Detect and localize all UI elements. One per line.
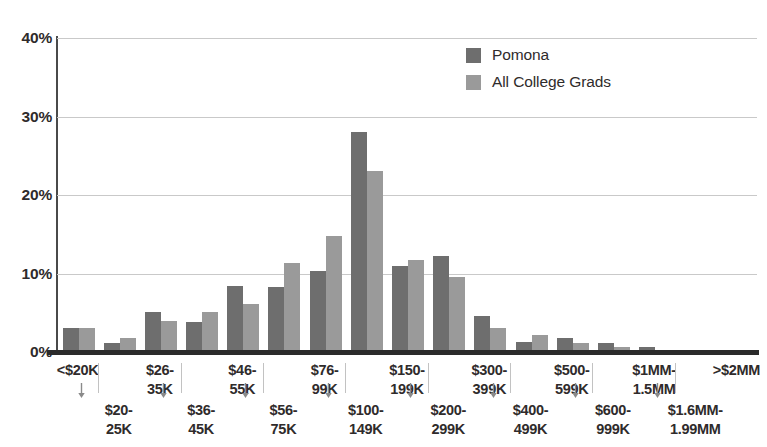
bar xyxy=(433,256,449,352)
x-axis-label-line: $150- xyxy=(362,361,452,380)
x-axis-label-line: 45K xyxy=(156,420,246,439)
x-axis-label-line: $100- xyxy=(321,401,411,420)
bar-group xyxy=(433,38,465,352)
x-axis-label-line: 75K xyxy=(238,420,328,439)
bar-group xyxy=(104,38,136,352)
income-distribution-chart: 0%10%20%30%40% Pomona All College Grads … xyxy=(0,0,767,447)
bar-group xyxy=(186,38,218,352)
x-axis-label-line: 149K xyxy=(321,420,411,439)
x-axis-label: $1.6MM-1.99MM xyxy=(650,401,740,439)
bar-group xyxy=(680,38,712,352)
x-axis-tick-separator xyxy=(345,363,346,393)
tick-down-arrow-icon xyxy=(239,383,252,399)
legend-swatch-pomona xyxy=(466,48,481,63)
bar-group xyxy=(145,38,177,352)
bar-group xyxy=(721,38,753,352)
bar-group xyxy=(268,38,300,352)
legend-label-pomona: Pomona xyxy=(492,46,549,64)
bar xyxy=(284,263,300,352)
x-axis-label-line: 999K xyxy=(568,420,658,439)
x-axis-tick-separator xyxy=(592,363,593,393)
x-axis-tick-separator xyxy=(98,363,99,393)
x-axis-tick-separator xyxy=(510,363,511,393)
bar xyxy=(367,171,383,352)
bar xyxy=(449,277,465,352)
x-axis-label-line: $26- xyxy=(115,361,205,380)
y-axis-tick-label: 20% xyxy=(4,186,52,204)
bar xyxy=(145,312,161,352)
x-axis-label-line: $300- xyxy=(444,361,534,380)
x-axis-label-line: $200- xyxy=(403,401,493,420)
x-axis-label-line: $1MM- xyxy=(609,361,699,380)
tick-down-arrow-icon xyxy=(322,383,335,399)
x-axis-label-line: 25K xyxy=(74,420,164,439)
bar xyxy=(490,328,506,352)
bar-group xyxy=(639,38,671,352)
bar xyxy=(63,328,79,352)
bar xyxy=(79,328,95,352)
x-axis-label: >$2MM xyxy=(691,361,767,380)
bar xyxy=(326,236,342,352)
x-axis-label-line: $46- xyxy=(197,361,287,380)
bar xyxy=(268,287,284,352)
x-axis-tick-separator xyxy=(428,363,429,393)
x-axis-label-line: 1.99MM xyxy=(650,420,740,439)
legend-label-all-college-grads: All College Grads xyxy=(492,73,611,91)
x-axis-label: $56-75K xyxy=(238,401,328,439)
bar xyxy=(227,286,243,352)
x-axis-label: $36-45K xyxy=(156,401,246,439)
bar-group xyxy=(392,38,424,352)
plot-area xyxy=(57,38,757,352)
x-axis-label: $20-25K xyxy=(74,401,164,439)
x-axis-label-line: >$2MM xyxy=(691,361,767,380)
x-axis-label-line: $1.6MM- xyxy=(650,401,740,420)
x-axis-tick-separator xyxy=(263,363,264,393)
x-axis-label-line: $36- xyxy=(156,401,246,420)
x-axis-label: $200-299K xyxy=(403,401,493,439)
bar xyxy=(474,316,490,352)
x-axis-label-line: $600- xyxy=(568,401,658,420)
bar-group xyxy=(351,38,383,352)
x-axis-label: <$20K xyxy=(33,361,123,380)
x-axis-label: $600-999K xyxy=(568,401,658,439)
x-axis-label-line: <$20K xyxy=(33,361,123,380)
x-axis-label-line: 499K xyxy=(486,420,576,439)
x-axis-label-line: $20- xyxy=(74,401,164,420)
x-axis-label: $100-149K xyxy=(321,401,411,439)
x-axis-label-line: $56- xyxy=(238,401,328,420)
tick-down-arrow-icon xyxy=(651,383,664,399)
bar xyxy=(243,304,259,352)
x-axis-label-line: $500- xyxy=(527,361,617,380)
x-axis-label-line: $400- xyxy=(486,401,576,420)
tick-down-arrow-icon xyxy=(487,383,500,399)
x-axis-tick-separator xyxy=(675,363,676,393)
x-axis-label: $400-499K xyxy=(486,401,576,439)
y-axis-tick-label: 40% xyxy=(4,29,52,47)
tick-down-arrow-icon xyxy=(569,383,582,399)
x-axis-label-line: $76- xyxy=(280,361,370,380)
bar xyxy=(202,312,218,352)
legend-swatch-all-college-grads xyxy=(466,75,481,90)
tick-down-arrow-icon xyxy=(75,383,88,399)
y-axis-tick-label: 10% xyxy=(4,265,52,283)
bar xyxy=(310,271,326,352)
bar-group xyxy=(63,38,95,352)
bar-group xyxy=(310,38,342,352)
bar xyxy=(186,322,202,352)
bar xyxy=(392,266,408,352)
bar-group xyxy=(227,38,259,352)
bar xyxy=(408,260,424,352)
x-axis-category-labels: <$20K$20-25K$26-35K$36-45K$46-55K$56-75K… xyxy=(0,355,767,447)
tick-down-arrow-icon xyxy=(404,383,417,399)
x-axis-tick-separator xyxy=(181,363,182,393)
bar xyxy=(161,321,177,352)
chart-legend: Pomona All College Grads xyxy=(466,45,611,92)
legend-item-pomona: Pomona xyxy=(466,45,611,65)
y-axis-tick-label: 30% xyxy=(4,108,52,126)
x-axis-label-line: 299K xyxy=(403,420,493,439)
legend-item-all-college-grads: All College Grads xyxy=(466,72,611,92)
bar xyxy=(351,132,367,352)
tick-down-arrow-icon xyxy=(157,383,170,399)
